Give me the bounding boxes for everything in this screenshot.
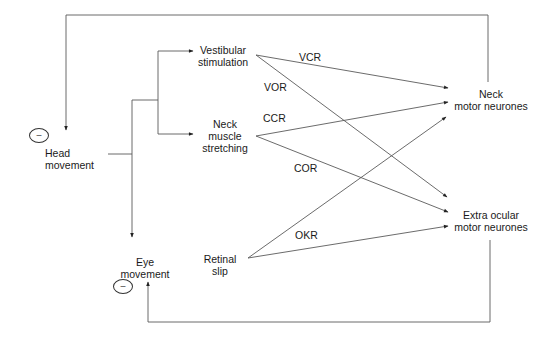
neck-muscle-label-3: stretching — [198, 142, 252, 154]
extra-ocular-label-1: Extra ocular — [452, 209, 530, 221]
vor-line — [256, 55, 447, 197]
neck-muscle-label-1: Neck — [198, 118, 252, 130]
head-negative-feedback-sign: – — [29, 128, 49, 143]
eye-movement-label-1: Eye — [118, 256, 172, 268]
okr-line — [248, 226, 448, 258]
node-extra-ocular-motor-neurones: Extra ocular motor neurones — [452, 209, 530, 233]
eye-negative-feedback-sign: – — [113, 279, 133, 294]
vestibular-label-2: stimulation — [194, 56, 252, 68]
reflex-label-cor: COR — [294, 162, 317, 174]
reflex-label-vcr: VCR — [299, 51, 321, 63]
node-neck-motor-neurones: Neck motor neurones — [452, 88, 530, 112]
node-retinal-slip: Retinal slip — [198, 253, 242, 277]
vestibular-label-1: Vestibular — [194, 44, 252, 56]
reflex-label-ccr: CCR — [263, 112, 286, 124]
retinal-to-neck-line — [248, 117, 446, 258]
extra-ocular-label-2: motor neurones — [452, 221, 530, 233]
neck-motor-label-1: Neck — [452, 88, 530, 100]
eye-movement-label-2: movement — [118, 268, 172, 280]
neck-motor-label-2: motor neurones — [452, 100, 530, 112]
head-movement-label-2: movement — [45, 159, 94, 171]
cor-line — [256, 136, 448, 212]
reflex-label-vor: VOR — [264, 81, 287, 93]
head-movement-label-1: Head — [45, 147, 94, 159]
node-neck-muscle-stretching: Neck muscle stretching — [198, 118, 252, 154]
retinal-slip-label-1: Retinal — [198, 253, 242, 265]
retinal-slip-label-2: slip — [198, 265, 242, 277]
reflex-label-okr: OKR — [295, 229, 318, 241]
node-head-movement: Head movement — [45, 147, 94, 171]
node-eye-movement: Eye movement — [118, 256, 172, 280]
node-vestibular-stimulation: Vestibular stimulation — [194, 44, 252, 68]
neck-muscle-label-2: muscle — [198, 130, 252, 142]
